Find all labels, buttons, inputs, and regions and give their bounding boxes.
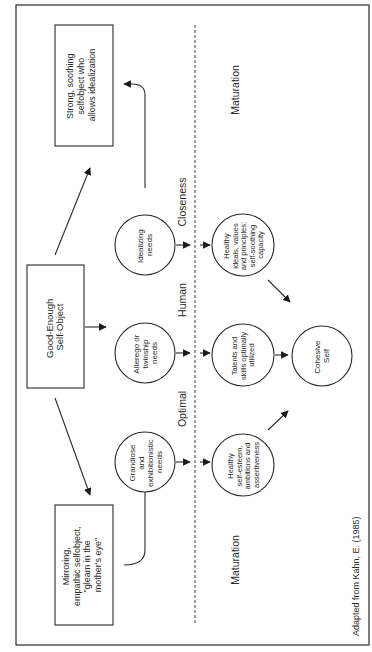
box-idealizing-selfobject: Strong, soothing selfobject who allows i… xyxy=(55,25,113,146)
source-credit: Adapted from Kahn, E. (1985) xyxy=(351,516,361,636)
box-mirroring-selfobject: Mirroring, empathic selfobject, "gleam i… xyxy=(55,505,113,625)
arrow-to-mirroring-box xyxy=(55,398,90,495)
circle-healthy-self-esteem: Healthy self-esteem, ambitions and asser… xyxy=(212,434,274,496)
circle-idealizing-needs: Idealizing needs xyxy=(115,215,175,275)
label-human: Human xyxy=(176,283,188,317)
arrow-ideals-to-cohesive xyxy=(268,280,290,302)
label-maturation-top: Maturation xyxy=(229,65,241,115)
circle-cohesive-self: Cohesive Self xyxy=(292,326,352,386)
label-maturation-bottom: Maturation xyxy=(229,535,241,585)
svg-text:Good-Enough Self-Object: Good-Enough Self-Object xyxy=(44,296,65,358)
label-closeness: Closeness xyxy=(176,177,188,226)
circle-alterego-needs: Alterego or twinship needs xyxy=(115,323,175,383)
circle-grandiose-needs: Grandiose and exhibitionistic needs xyxy=(115,432,175,492)
label-optimal: Optimal xyxy=(176,391,188,427)
circle-healthy-ideals: Healthy ideals, values and principles; s… xyxy=(212,214,274,276)
arrow-to-idealization-box xyxy=(55,168,90,255)
box-good-enough-selfobject: Good-Enough Self-Object xyxy=(27,265,84,388)
svg-text:Strong, soothing selfobj: Strong, soothing selfobject who allows i… xyxy=(65,49,97,122)
kahn-self-psychology-diagram: Strong, soothing selfobject who allows i… xyxy=(0,0,372,652)
arrow-idealizing-to-box xyxy=(124,84,145,188)
circle-talents-skills: Talents and skills optimally utilized xyxy=(212,324,274,386)
arrow-self-esteem-to-cohesive xyxy=(268,411,288,430)
